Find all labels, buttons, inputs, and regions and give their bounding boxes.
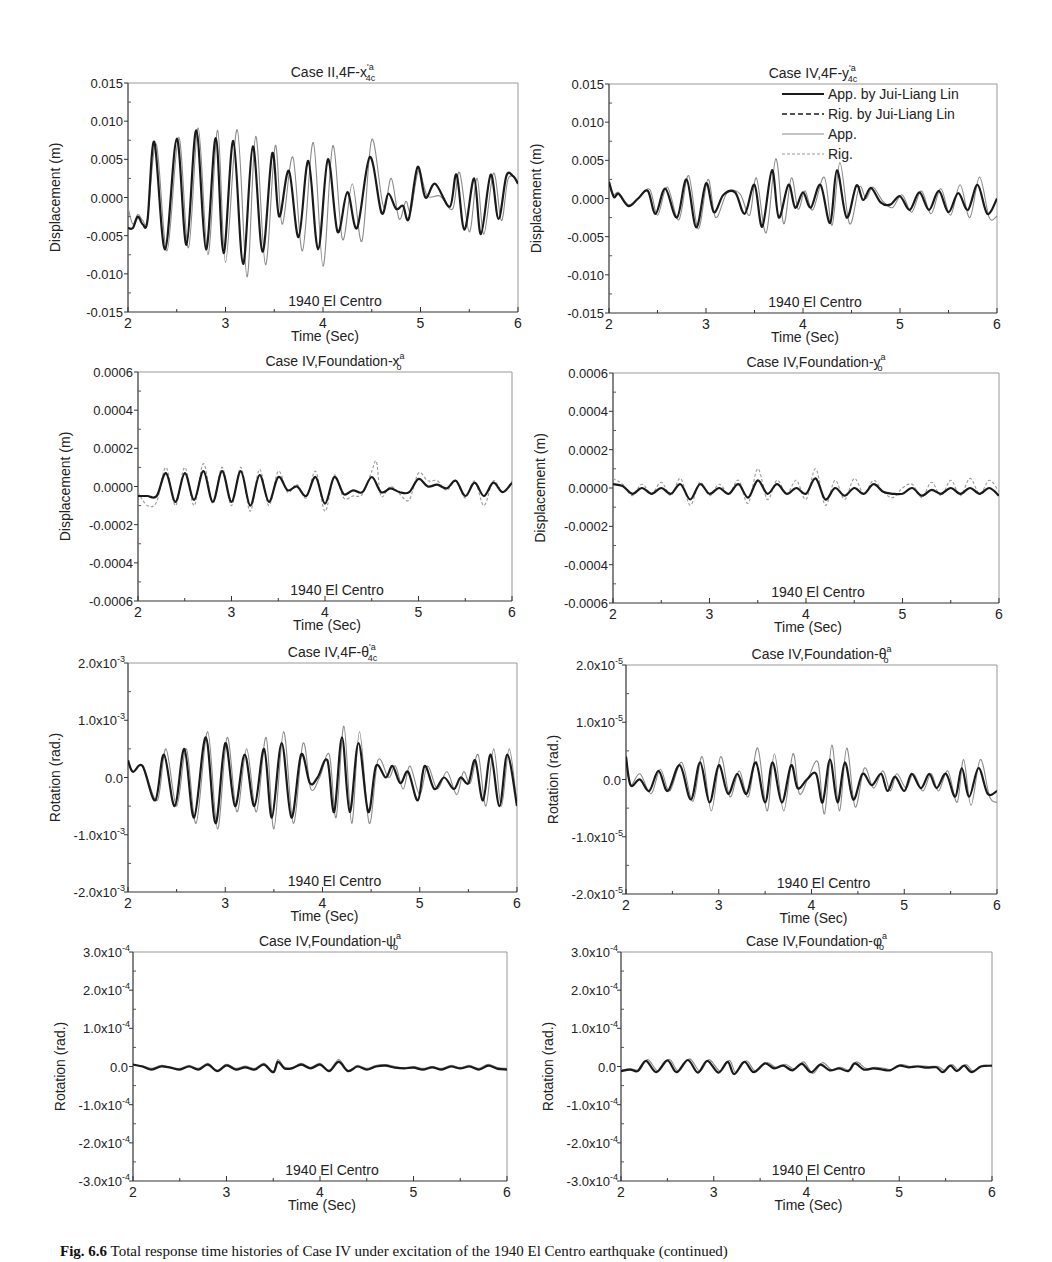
y-tick-label: 0.0000	[568, 481, 608, 496]
y-tick-label: 3.0x10-4	[83, 943, 130, 960]
x-tick-label: 2	[617, 1184, 625, 1200]
x-axis-label: Time (Sec)	[291, 908, 359, 924]
y-tick-label: -0.0006	[89, 594, 133, 609]
y-tick-label: -0.0002	[89, 518, 133, 533]
y-tick-label: -0.0002	[564, 519, 608, 534]
chart-legend: App. by Jui-Liang LinRig. by Jui-Liang L…	[782, 86, 959, 162]
chart-panel-p8: 234563.0x10-42.0x10-41.0x10-40.0-1.0x10-…	[540, 931, 996, 1213]
y-tick-label: 0.000	[90, 191, 123, 206]
chart-panel-p2: 234560.0150.0100.0050.000-0.005-0.010-0.…	[528, 63, 1001, 345]
chart-title: Case IV,Foundation-θao	[752, 644, 892, 665]
x-tick-label: 3	[702, 316, 710, 332]
x-tick-label: 5	[895, 1184, 903, 1200]
x-tick-label: 6	[514, 315, 522, 331]
x-tick-label: 3	[222, 315, 230, 331]
chart-title: Case IV,Foundation-xao	[265, 351, 404, 372]
y-tick-label: 1.0x10-4	[83, 1019, 130, 1036]
x-tick-label: 5	[900, 897, 908, 913]
y-tick-label: 0.0	[105, 771, 123, 786]
y-tick-label: 0.0	[598, 1060, 616, 1075]
y-axis-label: Rotation (rad.)	[47, 733, 63, 822]
y-axis-label: Displacement (m)	[528, 144, 544, 254]
chart-panel-p7: 234563.0x10-42.0x10-41.0x10-40.0-1.0x10-…	[52, 931, 511, 1213]
figure-caption-label: Fig. 6.6	[60, 1243, 107, 1259]
x-tick-label: 6	[995, 606, 1003, 622]
chart-title: Case IV,Foundation-φao	[746, 931, 887, 952]
chart-annotation: 1940 El Centro	[285, 1162, 379, 1178]
chart-panel-p5: 234562.0x10-31.0x10-30.0-1.0x10-3-2.0x10…	[47, 642, 521, 924]
chart-annotation: 1940 El Centro	[768, 294, 862, 310]
y-tick-label: -0.010	[567, 268, 604, 283]
x-tick-label: 5	[410, 1184, 418, 1200]
x-axis-label: Time (Sec)	[775, 1197, 843, 1213]
y-tick-label: -1.0x10-5	[572, 828, 623, 845]
series-line	[138, 471, 512, 505]
y-tick-label: -1.0x10-3	[74, 826, 125, 843]
x-tick-label: 6	[503, 1184, 511, 1200]
y-tick-label: -0.010	[86, 267, 123, 282]
y-tick-label: 2.0x10-4	[83, 981, 130, 998]
x-axis-label: Time (Sec)	[293, 617, 361, 633]
figure-caption-text: Total response time histories of Case IV…	[111, 1243, 728, 1259]
series-line	[128, 737, 517, 823]
y-tick-label: 1.0x10-4	[571, 1019, 618, 1036]
chart-title: Case IV,4F-y'a4c	[769, 63, 858, 84]
y-tick-label: -3.0x10-4	[567, 1172, 618, 1189]
chart-title: Case IV,4F-θ'a4c	[288, 642, 378, 663]
series-line	[621, 1060, 992, 1074]
chart-annotation: 1940 El Centro	[771, 584, 865, 600]
series-line	[128, 130, 518, 264]
series-line	[613, 478, 999, 499]
y-tick-label: -0.0004	[564, 558, 608, 573]
y-tick-label: 2.0x10-4	[571, 981, 618, 998]
y-tick-label: 0.0002	[93, 441, 133, 456]
x-axis-label: Time (Sec)	[774, 619, 842, 635]
x-tick-label: 2	[134, 604, 142, 620]
series-line	[626, 757, 997, 803]
y-tick-label: -0.015	[567, 306, 604, 321]
y-axis-label: Displacement (m)	[57, 432, 73, 542]
legend-label: App. by Jui-Liang Lin	[828, 86, 959, 102]
chart-panel-p1: 234560.0150.0100.0050.000-0.005-0.010-0.…	[47, 62, 522, 344]
y-tick-label: 0.005	[90, 152, 123, 167]
x-tick-label: 5	[417, 315, 425, 331]
x-tick-label: 2	[605, 316, 613, 332]
series-line	[128, 726, 517, 829]
chart-panel-p4: 234560.00060.00040.00020.0000-0.0002-0.0…	[532, 352, 1003, 635]
y-tick-label: 0.0004	[93, 403, 133, 418]
x-tick-label: 3	[223, 1184, 231, 1200]
x-tick-label: 3	[710, 1184, 718, 1200]
x-tick-label: 2	[124, 315, 132, 331]
x-tick-label: 2	[609, 606, 617, 622]
x-tick-label: 3	[706, 606, 714, 622]
y-tick-label: -0.0006	[564, 596, 608, 611]
x-tick-label: 6	[508, 604, 516, 620]
x-tick-label: 6	[988, 1184, 996, 1200]
legend-label: App.	[828, 126, 857, 142]
x-tick-label: 6	[993, 316, 1001, 332]
y-tick-label: -2.0x10-3	[74, 883, 125, 900]
x-axis-label: Time (Sec)	[291, 328, 359, 344]
y-tick-label: 2.0x10-5	[576, 656, 623, 673]
y-axis-label: Rotation (rad.)	[545, 735, 561, 824]
x-tick-label: 5	[896, 316, 904, 332]
y-axis-label: Displacement (m)	[47, 143, 63, 253]
x-tick-label: 6	[513, 895, 521, 911]
x-tick-label: 3	[715, 897, 723, 913]
chart-title: Case II,4F-x'a4c	[291, 62, 376, 83]
chart-title: Case IV,Foundation-ψao	[259, 931, 401, 952]
y-tick-label: -2.0x10-4	[79, 1134, 130, 1151]
y-axis-label: Displacement (m)	[532, 433, 548, 543]
x-tick-label: 3	[221, 895, 229, 911]
y-axis-label: Rotation (rad.)	[540, 1022, 556, 1111]
y-tick-label: 3.0x10-4	[571, 943, 618, 960]
x-tick-label: 5	[415, 604, 423, 620]
x-tick-label: 5	[416, 895, 424, 911]
y-tick-label: 0.0002	[568, 443, 608, 458]
y-tick-label: 0.015	[90, 76, 123, 91]
figure-caption: Fig. 6.6 Total response time histories o…	[60, 1243, 728, 1260]
y-tick-label: -0.005	[567, 230, 604, 245]
y-tick-label: 0.0006	[93, 365, 133, 380]
series-line	[609, 159, 997, 233]
x-tick-label: 2	[124, 895, 132, 911]
